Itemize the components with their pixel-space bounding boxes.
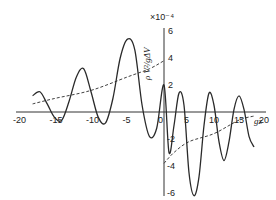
x-tick-label: -20 [13,115,26,125]
x-tick-label: 15 [234,115,244,125]
y-axis-label: ρ V²/gΔV [142,46,152,81]
x-tick-label: 10 [209,115,219,125]
y-tick-label: 6 [168,26,173,36]
y-axis-multiplier: ×10⁻⁴ [150,12,174,22]
chart-canvas: -20-15-10-505101520 642-2-4-6 ρ V²/gΔV ×… [0,0,276,200]
x-tick-labels: -20-15-10-505101520 [13,115,269,125]
y-tick-label: -4 [167,161,175,171]
y-tick-label: 2 [168,80,173,90]
x-tick-label: -10 [86,115,99,125]
y-tick-label: 4 [168,53,173,63]
x-axis-label: gz [254,116,263,126]
x-tick-label: -5 [123,115,131,125]
x-tick-label: -15 [50,115,63,125]
y-tick-label: -6 [167,188,175,198]
